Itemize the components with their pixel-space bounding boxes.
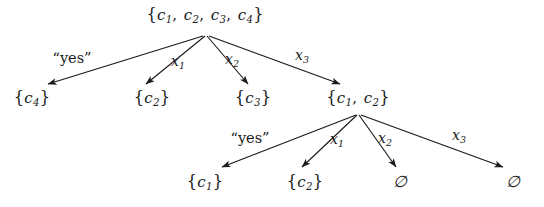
set-element-c: c	[297, 173, 306, 191]
set-element-c: c	[245, 89, 254, 107]
subscript-1: 1	[206, 181, 213, 192]
subscript-2: 2	[386, 137, 392, 148]
subscript-4: 4	[246, 14, 253, 25]
subscript-3: 3	[254, 97, 261, 108]
node-empty-set-2: ∅	[506, 174, 520, 190]
set-element-c: c	[337, 89, 346, 107]
subscript-2: 2	[306, 181, 313, 192]
subscript-2: 2	[233, 58, 239, 69]
comma: ,	[172, 6, 178, 24]
node-empty-set-1: ∅	[393, 174, 407, 190]
open-brace: {	[134, 88, 145, 107]
node-c2-upper: {c2}	[134, 90, 170, 108]
open-brace: {	[235, 88, 246, 107]
edge-label-x3-lower: x3	[452, 128, 466, 144]
edge-label-x2-upper: x2	[225, 52, 239, 68]
open-brace: {	[14, 88, 25, 107]
set-element-c: c	[211, 6, 220, 24]
variable-x: x	[295, 47, 303, 63]
variable-x: x	[225, 51, 233, 67]
open-brace: {	[287, 172, 298, 191]
subscript-3: 3	[219, 14, 226, 25]
edge-label-x3-upper: x3	[295, 48, 309, 64]
close-brace: }	[160, 88, 171, 107]
subscript-3: 3	[460, 134, 466, 145]
subscript-2: 2	[192, 14, 199, 25]
subscript-1: 1	[165, 14, 172, 25]
subscript-1: 1	[338, 138, 344, 149]
subscript-1: 1	[179, 60, 185, 71]
edge-label-x1-upper: x1	[171, 54, 185, 70]
close-brace: }	[313, 172, 324, 191]
edge-label-yes-lower: “yes”	[230, 131, 269, 146]
subscript-1: 1	[345, 97, 352, 108]
node-c1-c2: {c1, c2}	[326, 90, 389, 108]
close-brace: }	[40, 88, 51, 107]
set-element-c: c	[184, 6, 193, 24]
set-element-c: c	[144, 89, 153, 107]
set-element-c: c	[157, 6, 166, 24]
subscript-3: 3	[303, 54, 309, 65]
close-brace: }	[213, 172, 224, 191]
subscript-2: 2	[372, 97, 379, 108]
variable-x: x	[330, 131, 338, 147]
variable-x: x	[171, 53, 179, 69]
node-root: {c1, c2, c3, c4}	[146, 7, 263, 25]
close-brace: }	[261, 88, 272, 107]
set-element-c: c	[238, 6, 247, 24]
node-c2-lower: {c2}	[287, 174, 323, 192]
edge-label-x2-lower: x2	[378, 131, 392, 147]
set-element-c: c	[24, 89, 33, 107]
edge-label-x1-lower: x1	[330, 132, 344, 148]
tree-edges-layer	[0, 0, 544, 207]
open-brace: {	[146, 5, 157, 24]
comma: ,	[226, 6, 232, 24]
open-brace: {	[326, 88, 337, 107]
comma: ,	[352, 89, 358, 107]
set-element-c: c	[197, 173, 206, 191]
comma: ,	[199, 6, 205, 24]
close-brace: }	[379, 88, 390, 107]
node-c3: {c3}	[235, 90, 271, 108]
variable-x: x	[452, 127, 460, 143]
node-c1: {c1}	[187, 174, 223, 192]
tree-diagram-canvas: {c1, c2, c3, c4} {c4} {c2} {c3} {c1, c2}…	[0, 0, 544, 207]
close-brace: }	[253, 5, 264, 24]
subscript-2: 2	[153, 97, 160, 108]
variable-x: x	[378, 130, 386, 146]
open-brace: {	[187, 172, 198, 191]
subscript-4: 4	[33, 97, 40, 108]
edge-label-yes-upper: “yes”	[52, 51, 91, 66]
node-c4: {c4}	[14, 90, 50, 108]
set-element-c: c	[364, 89, 373, 107]
